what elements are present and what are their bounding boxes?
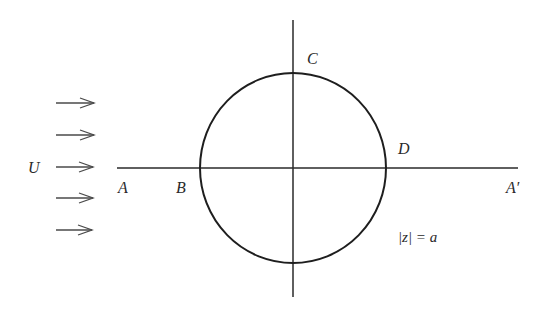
flow-arrows [56, 98, 94, 235]
point-d-label: D [397, 140, 410, 157]
flow-arrow-icon [56, 225, 92, 235]
flow-arrow-icon [56, 130, 94, 140]
cylinder-flow-diagram: U A B C D A′ |z| = a [0, 0, 548, 333]
point-b-label: B [176, 179, 186, 196]
flow-arrow-icon [56, 162, 93, 172]
point-a-label: A [117, 179, 128, 196]
point-a-prime-label: A′ [505, 179, 520, 196]
flow-arrow-icon [56, 98, 94, 108]
point-c-label: C [307, 50, 318, 67]
free-stream-label: U [28, 159, 41, 176]
flow-arrow-icon [56, 193, 93, 203]
circle-equation-label: |z| = a [398, 229, 437, 245]
